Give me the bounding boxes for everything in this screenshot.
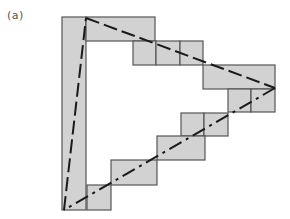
grid-cell (86, 17, 155, 41)
grid-cell (251, 89, 275, 112)
grid-cell (180, 41, 203, 65)
grid-cell (157, 136, 205, 160)
grid-cell (111, 160, 157, 185)
grid-cell (228, 89, 251, 112)
staircase-triangle-diagram (0, 0, 290, 219)
grid-cell (133, 41, 156, 65)
triangle-edge (86, 18, 275, 88)
grid-cell (203, 65, 275, 89)
grid-cell (181, 113, 204, 136)
grid-cells (62, 17, 275, 210)
